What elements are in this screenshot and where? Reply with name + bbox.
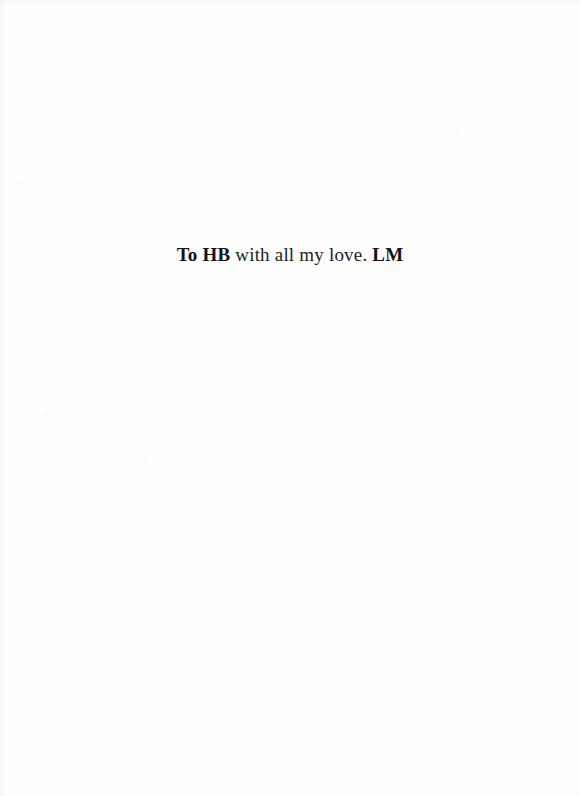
dedication-block: To HB with all my love. LM (0, 224, 580, 286)
dedication-body: with all my love. (230, 244, 372, 265)
dedication-page: To HB with all my love. LM (0, 0, 580, 796)
dedication-recipient: To HB (177, 244, 231, 265)
dedication-line: To HB with all my love. LM (177, 243, 404, 267)
paper-scan-noise (0, 0, 580, 796)
dedication-signature: LM (372, 244, 403, 265)
